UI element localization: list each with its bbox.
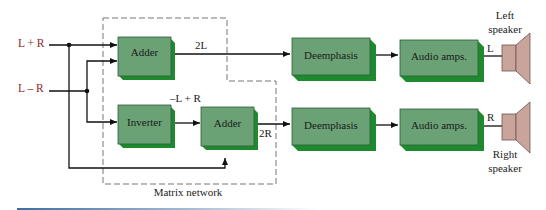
block-deemphasis-bottom: Deemphasis <box>292 108 376 151</box>
junction-dot <box>67 43 72 48</box>
block-label: Deemphasis <box>304 119 358 131</box>
signal-label-2l: 2L <box>195 39 208 51</box>
input-label-l-minus-r: L – R <box>18 82 44 94</box>
block-adder-bottom: Adder <box>201 107 258 150</box>
block-audio-amps-bottom: Audio amps. <box>400 109 484 151</box>
signal-label-2r: 2R <box>259 127 273 139</box>
block-adder-top: Adder <box>118 37 175 80</box>
signal-label-l: L <box>487 42 494 54</box>
right-speaker-icon <box>502 102 530 153</box>
block-deemphasis-top: Deemphasis <box>292 38 376 81</box>
left-speaker-icon <box>502 33 530 84</box>
block-inverter: Inverter <box>118 105 175 148</box>
block-label: Adder <box>214 117 242 129</box>
stereo-decoder-diagram: L + R L – R Adder Inverter Adde <box>0 0 546 210</box>
block-label: Audio amps. <box>411 50 467 62</box>
block-label: Adder <box>131 46 159 58</box>
right-speaker-label-line1: Right <box>493 148 517 160</box>
left-speaker-label-line2: speaker <box>488 23 522 35</box>
right-speaker-label-line2: speaker <box>488 162 522 174</box>
signal-label-r: R <box>487 111 495 123</box>
block-label: Deemphasis <box>304 49 358 61</box>
bottom-rule <box>17 208 317 210</box>
block-label: Audio amps. <box>411 119 467 131</box>
left-speaker-label-line1: Left <box>496 9 514 21</box>
junction-dot <box>85 89 90 94</box>
block-audio-amps-top: Audio amps. <box>400 40 484 82</box>
signal-label-neg-l-plus-r: –L + R <box>169 92 202 104</box>
block-label: Inverter <box>127 116 162 128</box>
matrix-network-label: Matrix network <box>154 186 223 198</box>
input-label-l-plus-r: L + R <box>18 37 45 49</box>
